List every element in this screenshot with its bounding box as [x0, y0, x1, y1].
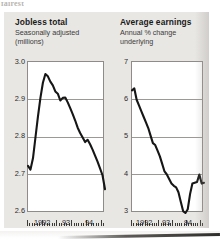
- x-axis-major-tick: [71, 220, 72, 226]
- x-axis-minor-tick: [74, 223, 75, 226]
- chart-jobless-total-headings: Jobless total Seasonally adjusted (milli…: [15, 17, 110, 45]
- y-tick-label-left-4: 2.6: [5, 207, 25, 214]
- x-axis-major-tick: [27, 220, 28, 226]
- x-axis-minor-tick: [193, 223, 194, 226]
- x-axis-major-tick: [101, 220, 102, 226]
- x-axis-minor-tick: [32, 223, 33, 226]
- chart-jobless-total-title: Jobless total: [15, 17, 110, 27]
- x-axis-minor-tick: [103, 223, 104, 226]
- y-tick-label-right-4: 3: [118, 207, 128, 214]
- y-tick-label-right-2: 5: [118, 132, 128, 139]
- y-tick-label-left-0: 3.0: [5, 58, 25, 65]
- series-line-jobless-total: [28, 62, 105, 213]
- y-tick-label-right-3: 4: [118, 170, 128, 177]
- y-tick-label-left-2: 2.8: [5, 132, 25, 139]
- chart-average-earnings: Average earnings Annual % change underly…: [112, 12, 209, 228]
- x-axis-minor-tick: [54, 223, 55, 226]
- x-tick-label-left-0: 1992: [34, 218, 50, 227]
- x-axis-minor-tick: [175, 223, 176, 226]
- x-axis-minor-tick: [29, 223, 30, 226]
- plot-area-average-earnings: [131, 61, 203, 212]
- x-axis-major-tick: [131, 220, 132, 226]
- x-axis-minor-tick: [197, 223, 198, 226]
- chart-average-earnings-subtitle-line1: Annual % change: [120, 29, 215, 37]
- series-line-average-earnings: [132, 62, 204, 213]
- x-axis-minor-tick: [59, 223, 60, 226]
- x-axis-major-tick: [56, 220, 57, 226]
- x-axis-minor-tick: [78, 223, 79, 226]
- x-axis-minor-tick: [52, 223, 53, 226]
- x-tick-label-left-1: 93: [62, 218, 70, 227]
- x-axis-minor-tick: [154, 223, 155, 226]
- x-axis-minor-tick: [177, 223, 178, 226]
- charts-panel: Jobless total Seasonally adjusted (milli…: [4, 12, 209, 228]
- y-tick-label-left-3: 2.7: [5, 170, 25, 177]
- chart-jobless-total: Jobless total Seasonally adjusted (milli…: [4, 12, 112, 228]
- chart-jobless-total-subtitle-line1: Seasonally adjusted: [15, 29, 110, 37]
- page-top-bleed-text: fairest: [1, 0, 24, 8]
- x-axis-major-tick: [158, 220, 159, 226]
- x-tick-label-right-2: 94: [184, 218, 192, 227]
- x-axis-minor-tick: [81, 223, 82, 226]
- x-axis-major-tick: [172, 220, 173, 226]
- x-axis-minor-tick: [133, 223, 134, 226]
- plot-area-jobless-total: [27, 61, 104, 212]
- y-tick-label-right-0: 7: [118, 58, 128, 65]
- x-axis-minor-tick: [195, 223, 196, 226]
- chart-average-earnings-subtitle-line2: underlying: [120, 38, 215, 46]
- x-axis-minor-tick: [76, 223, 77, 226]
- chart-average-earnings-headings: Average earnings Annual % change underly…: [120, 17, 215, 45]
- x-tick-label-left-2: 94: [85, 218, 93, 227]
- x-tick-label-right-1: 93: [162, 218, 170, 227]
- x-axis-minor-tick: [181, 223, 182, 226]
- x-axis-minor-tick: [156, 223, 157, 226]
- chart-average-earnings-title: Average earnings: [120, 17, 215, 27]
- x-axis-major-tick: [200, 220, 201, 226]
- y-tick-label-left-1: 2.9: [5, 95, 25, 102]
- y-tick-label-right-1: 6: [118, 95, 128, 102]
- x-axis-minor-tick: [93, 223, 94, 226]
- x-axis-minor-tick: [98, 223, 99, 226]
- x-tick-label-right-0: 1992: [136, 218, 152, 227]
- x-axis-minor-tick: [179, 223, 180, 226]
- x-axis-minor-tick: [96, 223, 97, 226]
- x-axis-minor-tick: [202, 223, 203, 226]
- chart-jobless-total-subtitle-line2: (millions): [15, 38, 110, 46]
